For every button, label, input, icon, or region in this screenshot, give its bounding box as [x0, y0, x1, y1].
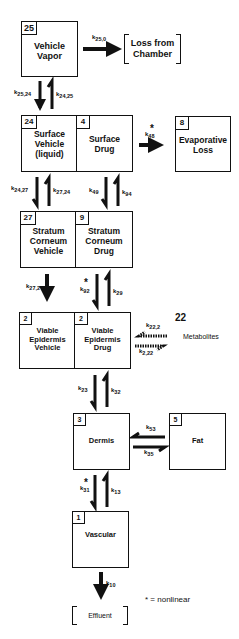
rate-k22-2: k22,2: [146, 322, 160, 330]
arrow-k24-25: [48, 81, 52, 109]
compartment-label: Drug: [76, 247, 132, 257]
arrow-k22-2: [139, 332, 167, 336]
compartment-number: 5: [170, 414, 182, 426]
sink-label: Loss from: [124, 38, 181, 49]
compartment-number: 4: [77, 116, 90, 129]
compartment-label: Vascular: [73, 531, 128, 540]
legend-nonlinear: * = nonlinear: [145, 595, 190, 604]
rate-k48: k48: [145, 131, 154, 139]
rate-k29: k29: [113, 288, 122, 296]
compartment-vascular: 1 Vascular: [72, 511, 129, 568]
compartment-number: 9: [76, 212, 89, 225]
rate-k25-24: k25,24: [14, 89, 31, 97]
compartment-label: Fat: [170, 437, 225, 446]
compartment-viable-epidermis-vehicle: 2 Viable Epidermis Vehicle: [19, 312, 76, 369]
rate-k35: k35: [144, 449, 153, 457]
arrow-k13: [103, 475, 107, 507]
arrow-k27-24: [45, 178, 49, 206]
rate-k2-22: k2,22: [139, 348, 153, 356]
compartment-number: 8: [176, 117, 189, 130]
rate-k27-2: k27,2: [26, 283, 40, 291]
sink-label: Chamber: [124, 49, 181, 60]
rate-k24-27: k24,27: [11, 185, 28, 193]
compartment-number: 27: [21, 212, 36, 225]
compartment-surface-drug: 4 Surface Drug: [76, 115, 133, 172]
rate-k13: k13: [111, 487, 120, 495]
compartment-label: Drug: [77, 145, 132, 155]
rate-k32: k32: [111, 387, 120, 395]
rate-k31: k31: [80, 485, 89, 493]
rate-k25-0: k25,0: [92, 34, 106, 42]
compartment-label: Dermis: [74, 437, 129, 446]
compartment-label: Vapor: [22, 51, 77, 61]
compartment-label: Vehicle: [20, 344, 75, 353]
compartment-label: Drug: [75, 344, 130, 353]
arrow-k92: [93, 274, 97, 306]
compartment-stratum-corneum-drug: 9 Stratum Corneum Drug: [75, 211, 133, 268]
rate-k92: k92: [80, 286, 89, 294]
compartment-number: 24: [22, 116, 37, 129]
compartment-stratum-corneum-vehicle: 27 Stratum Corneum Vehicle: [20, 211, 77, 268]
compartment-label: Loss: [176, 146, 230, 156]
arrow-k23: [91, 375, 95, 407]
compartment-fat: 5 Fat: [169, 413, 226, 470]
compartment-number: 2: [20, 313, 32, 325]
rate-k24-25: k24,25: [56, 91, 73, 99]
rate-k27-24: k27,24: [53, 187, 70, 195]
rate-k10: k10: [106, 580, 115, 588]
compartment-number: 2: [75, 313, 88, 325]
arrow-k29: [105, 274, 109, 306]
compartment-dermis: 3 Dermis: [73, 413, 130, 470]
arrow-k32: [103, 375, 107, 407]
sink-label: Effluent: [88, 612, 112, 619]
metabolites-label: Metabolites: [183, 333, 219, 340]
sink-loss-from-chamber: Loss from Chamber: [124, 34, 181, 64]
compartment-number: 25: [22, 22, 37, 35]
compartment-number: 3: [74, 414, 86, 426]
arrow-k53: [133, 433, 165, 437]
arrow-k24-27: [33, 177, 37, 205]
compartment-number: 1: [73, 512, 85, 524]
compartment-surface-vehicle: 24 Surface Vehicle (liquid): [21, 115, 78, 172]
arrow-k31: [91, 475, 95, 507]
metabolites-number: 22: [175, 312, 186, 323]
rate-k49: k49: [89, 187, 98, 195]
arrow-k49: [102, 177, 106, 205]
sink-effluent: Effluent: [72, 606, 128, 625]
arrow-k94: [114, 178, 118, 206]
rate-k94: k94: [122, 189, 131, 197]
compartment-label: Vehicle: [22, 41, 77, 51]
compartment-evaporative-loss: 8 Evaporative Loss: [175, 116, 231, 172]
compartment-viable-epidermis-drug: 2 Viable Epidermis Drug: [74, 312, 131, 369]
compartment-vehicle-vapor: 25 Vehicle Vapor: [21, 21, 78, 77]
rate-k53: k53: [146, 424, 155, 432]
rate-k23: k23: [78, 385, 87, 393]
compartment-label: Vehicle: [21, 247, 76, 257]
compartment-label: (liquid): [22, 150, 77, 160]
